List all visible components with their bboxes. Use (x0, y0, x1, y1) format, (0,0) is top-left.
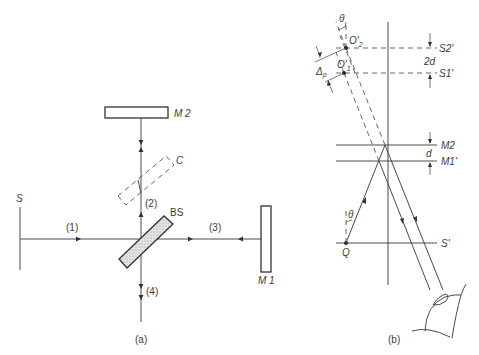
arrow-down-icon (139, 140, 144, 145)
beam-4-label: (4) (146, 286, 158, 297)
arrow-up-icon (139, 212, 144, 217)
beam-3-label: (3) (209, 222, 221, 233)
s1-label: S1' (439, 68, 454, 79)
interferometer-figure: S (1) (3) (2) (4) M 2 M 1 C BS (0, 0, 479, 355)
arrow-down-icon (139, 295, 144, 300)
arrow-up-icon (428, 162, 432, 167)
mirror-m1-label: M 1 (258, 275, 275, 286)
o1-label: O'1 (337, 59, 351, 72)
theta-top-label: θ (339, 13, 345, 24)
theta-bottom-label: θ (348, 209, 354, 220)
reflected-ray-m1 (379, 161, 430, 290)
m2-label: M2 (441, 140, 455, 151)
arrow-right-icon (188, 237, 193, 242)
panel-a-caption: (a) (135, 334, 147, 345)
virtual-ray-2 (346, 48, 385, 145)
arrow-down-icon (139, 284, 144, 289)
s-prime-label: S' (441, 238, 451, 249)
arrow-up-icon (139, 147, 144, 152)
o2-label: O'2 (349, 35, 363, 48)
arrow-down-icon (428, 42, 432, 47)
panel-a-michelson: S (1) (3) (2) (4) M 2 M 1 C BS (16, 107, 275, 345)
panel-b-equivalent: S2' S1' 2d M2 M1' d S' Q θ (315, 13, 466, 345)
source-label: S (16, 193, 23, 204)
beamsplitter (119, 216, 173, 268)
mirror-m2-label: M 2 (174, 108, 191, 119)
arrow-left-icon (238, 237, 243, 242)
beam-1-label: (1) (66, 222, 78, 233)
mirror-m1 (261, 206, 271, 272)
delta-p-label: Δp (315, 66, 327, 79)
arrow-up-icon (428, 74, 432, 79)
incident-ray (346, 145, 385, 243)
arrow-right-icon (76, 237, 81, 242)
arrow-down-icon (318, 52, 322, 58)
s2-label: S2' (439, 43, 454, 54)
q-label: Q (342, 247, 350, 258)
beamsplitter-label: BS (170, 207, 184, 218)
panel-b-caption: (b) (388, 334, 400, 345)
eye-icon (412, 284, 466, 338)
beam-2-label: (2) (145, 198, 157, 209)
arrow-down-icon (428, 139, 432, 144)
m1-label: M1' (441, 156, 458, 167)
d-label: d (426, 148, 432, 159)
compensator-label: C (176, 155, 184, 166)
mirror-m2 (105, 107, 168, 118)
two-d-label: 2d (423, 56, 436, 67)
